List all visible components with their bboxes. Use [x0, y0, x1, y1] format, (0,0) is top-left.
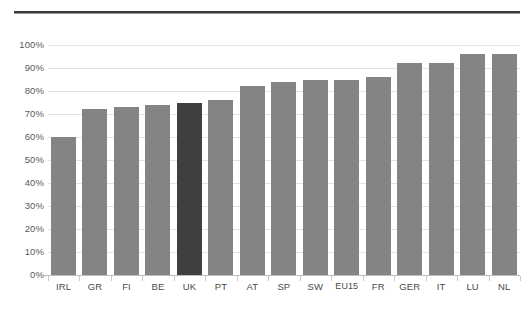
bar-slot-sw	[300, 45, 331, 275]
x-axis-label-pt: PT	[205, 281, 236, 292]
bar-slot-eu15	[331, 45, 362, 275]
bar-slot-be	[142, 45, 173, 275]
x-axis-label-nl: NL	[489, 281, 520, 292]
x-axis-label-sp: SP	[268, 281, 299, 292]
x-axis-label-fi: FI	[111, 281, 142, 292]
x-axis-label-lu: LU	[457, 281, 488, 292]
bar-irl[interactable]	[51, 137, 76, 275]
axis-baseline	[44, 275, 520, 276]
bar-nl[interactable]	[492, 54, 517, 275]
plot-area	[48, 45, 520, 275]
header-divider-shadow	[14, 13, 520, 14]
y-axis-tick-label: 10%	[0, 247, 44, 257]
y-axis-tick-label: 30%	[0, 201, 44, 211]
bar-it[interactable]	[429, 63, 454, 275]
bar-pt[interactable]	[208, 100, 233, 275]
y-axis-tick-label: 90%	[0, 63, 44, 73]
bar-slot-nl	[489, 45, 520, 275]
bar-slot-uk	[174, 45, 205, 275]
bar-slot-sp	[268, 45, 299, 275]
bar-eu15[interactable]	[334, 80, 359, 276]
x-axis-label-uk: UK	[174, 281, 205, 292]
x-axis-label-it: IT	[426, 281, 457, 292]
y-axis-tick-label: 50%	[0, 155, 44, 165]
x-axis-label-gr: GR	[79, 281, 110, 292]
bar-sw[interactable]	[303, 80, 328, 276]
x-axis-label-be: BE	[142, 281, 173, 292]
bar-chart: 100%90%80%70%60%50%40%30%20%10%0% IRLGRF…	[0, 0, 527, 315]
y-axis-tick-label: 70%	[0, 109, 44, 119]
x-axis-label-fr: FR	[363, 281, 394, 292]
bar-slot-ger	[394, 45, 425, 275]
bar-slot-pt	[205, 45, 236, 275]
x-axis-label-at: AT	[237, 281, 268, 292]
bar-slot-irl	[48, 45, 79, 275]
bar-slot-gr	[79, 45, 110, 275]
bar-ger[interactable]	[397, 63, 422, 275]
y-axis-tick-label: 0%	[0, 270, 44, 280]
bar-slot-lu	[457, 45, 488, 275]
x-axis-labels: IRLGRFIBEUKPTATSPSWEU15FRGERITLUNL	[48, 281, 520, 301]
bar-fi[interactable]	[114, 107, 139, 275]
bar-slot-at	[237, 45, 268, 275]
y-axis-tick-label: 40%	[0, 178, 44, 188]
y-axis-tick-label: 100%	[0, 40, 44, 50]
bar-slot-fi	[111, 45, 142, 275]
x-axis-label-ger: GER	[394, 281, 425, 292]
x-axis-label-sw: SW	[300, 281, 331, 292]
x-axis-tick	[520, 276, 521, 281]
bar-lu[interactable]	[460, 54, 485, 275]
bar-uk[interactable]	[177, 103, 202, 276]
bar-slot-it	[426, 45, 457, 275]
y-axis-tick-label: 20%	[0, 224, 44, 234]
x-axis-label-irl: IRL	[48, 281, 79, 292]
bar-be[interactable]	[145, 105, 170, 275]
y-axis-tick-label: 80%	[0, 86, 44, 96]
bar-series	[48, 45, 520, 275]
y-axis-tick-label: 60%	[0, 132, 44, 142]
bar-gr[interactable]	[82, 109, 107, 275]
bar-at[interactable]	[240, 86, 265, 275]
bar-fr[interactable]	[366, 77, 391, 275]
bar-slot-fr	[363, 45, 394, 275]
x-axis-label-eu15: EU15	[331, 281, 362, 291]
bar-sp[interactable]	[271, 82, 296, 275]
y-axis: 100%90%80%70%60%50%40%30%20%10%0%	[0, 45, 44, 277]
